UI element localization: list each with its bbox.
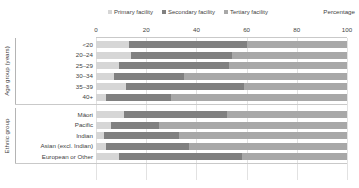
x-axis-ticks: 020406080100 [96, 25, 347, 35]
bar-segment [179, 132, 347, 139]
group-separator [15, 104, 347, 105]
bar-segment [96, 62, 119, 69]
bar-segment [96, 132, 104, 139]
legend-label-secondary-facility: Secondary facility [168, 9, 215, 16]
gridline-100 [347, 38, 348, 180]
bar-segment [119, 153, 242, 160]
legend-swatch-primary-facility [108, 10, 112, 14]
plot-area [96, 38, 347, 180]
group-axis-tick [15, 38, 16, 104]
bar-row [96, 52, 347, 59]
group-axis-age: Age group (years) [0, 38, 14, 104]
bar-segment [227, 111, 347, 118]
y-axis-label: 20–24 [7, 51, 93, 59]
legend-label-tertiary-facility: Tertiary facility [230, 9, 268, 16]
bar-segment [104, 132, 179, 139]
bar-segment [184, 73, 347, 80]
bar-segment [242, 153, 347, 160]
bar-segment [96, 41, 129, 48]
legend-label-primary-facility: Primary facility [114, 9, 153, 16]
x-axis-label: Percentage [323, 8, 355, 16]
bar-segment [232, 52, 347, 59]
x-tick-20: 20 [143, 25, 150, 34]
bar-segment [124, 111, 227, 118]
legend-item-secondary-facility: Secondary facility [162, 9, 215, 16]
y-axis-label: 25–29 [7, 62, 93, 70]
bar-segment [106, 143, 189, 150]
y-axis-label: Māori [7, 111, 93, 119]
x-tick-40: 40 [193, 25, 200, 34]
group-axis-title: Ethnic group [3, 118, 11, 153]
y-axis-label: Indian [7, 132, 93, 140]
bar-segment [159, 122, 347, 129]
chart-legend: Primary facility Secondary facility Tert… [88, 6, 288, 18]
bar-segment [96, 83, 126, 90]
bar-segment [96, 111, 124, 118]
bar-segment [96, 153, 119, 160]
bar-segment [126, 83, 244, 90]
y-axis-label: 35–39 [7, 83, 93, 91]
bar-row [96, 132, 347, 139]
y-axis-label: Pacific [7, 121, 93, 129]
bar-row [96, 94, 347, 101]
bar-row [96, 73, 347, 80]
bar-row [96, 153, 347, 160]
legend-item-primary-facility: Primary facility [108, 9, 153, 16]
bar-segment [171, 94, 347, 101]
bar-row [96, 62, 347, 69]
x-tick-60: 60 [243, 25, 250, 34]
bar-segment [131, 52, 231, 59]
bar-row [96, 83, 347, 90]
bar-segment [119, 62, 229, 69]
stacked-bar-chart: Primary facility Secondary facility Tert… [0, 0, 359, 188]
bar-segment [96, 73, 114, 80]
bar-row [96, 122, 347, 129]
bar-row [96, 143, 347, 150]
bar-segment [106, 94, 171, 101]
group-axis-title: Age group (years) [3, 46, 11, 96]
bar-segment [96, 94, 106, 101]
bar-segment [111, 122, 159, 129]
bar-segment [96, 52, 131, 59]
bar-segment [229, 62, 347, 69]
x-tick-80: 80 [293, 25, 300, 34]
y-axis-label: <20 [7, 41, 93, 49]
group-separator [15, 163, 347, 164]
bar-segment [96, 122, 111, 129]
x-tick-100: 100 [342, 25, 352, 34]
bar-segment [114, 73, 184, 80]
y-axis-label: 40+ [7, 93, 93, 101]
y-axis-label: Asian (excl. Indian) [7, 142, 93, 150]
legend-item-tertiary-facility: Tertiary facility [224, 9, 268, 16]
y-axis-label: European or Other [7, 153, 93, 161]
x-tick-0: 0 [94, 25, 97, 34]
bar-segment [244, 83, 347, 90]
bar-row [96, 111, 347, 118]
group-axis-ethnicity: Ethnic group [0, 108, 14, 163]
bar-segment [96, 143, 106, 150]
bar-segment [129, 41, 247, 48]
y-axis-label: 30–34 [7, 72, 93, 80]
legend-swatch-tertiary-facility [224, 10, 228, 14]
legend-swatch-secondary-facility [162, 10, 166, 14]
bar-segment [247, 41, 347, 48]
bar-row [96, 41, 347, 48]
bar-segment [189, 143, 347, 150]
group-axis-tick [15, 108, 16, 163]
